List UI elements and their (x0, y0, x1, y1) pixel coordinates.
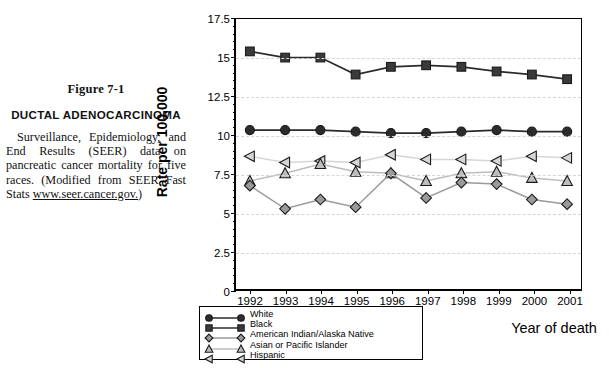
x-axis-tick (428, 289, 429, 294)
data-point (492, 67, 501, 76)
seer-link[interactable]: www.seer.cancer.gov. (33, 187, 138, 201)
y-axis-minor-tick (233, 34, 236, 35)
y-axis-minor-tick (233, 268, 236, 269)
data-point (491, 179, 502, 190)
x-axis-tick (534, 289, 535, 294)
data-point (246, 47, 255, 56)
y-axis-tick (231, 57, 236, 58)
y-axis-label: 17.5 (208, 13, 230, 25)
y-axis-minor-tick (233, 104, 236, 105)
legend-item[interactable]: American Indian/Alaska Native (203, 329, 419, 339)
x-axis-tick (321, 289, 322, 294)
y-axis-tick (231, 252, 236, 253)
data-point (280, 203, 291, 214)
legend-key-left-triangle-icon (203, 350, 247, 360)
data-point (527, 127, 536, 136)
x-axis-label: 1998 (451, 295, 477, 307)
series-line (250, 155, 567, 163)
y-axis-minor-tick (233, 283, 236, 284)
y-axis-minor-tick (233, 80, 236, 81)
data-point (526, 151, 536, 162)
data-point (422, 61, 431, 70)
legend-label: Black (250, 319, 272, 329)
y-axis-minor-tick (233, 49, 236, 50)
legend-key-diamond-icon (203, 329, 247, 339)
x-axis-tick (250, 289, 251, 294)
x-axis-label: 2000 (522, 295, 548, 307)
legend-item[interactable]: Black (203, 319, 419, 329)
data-point (421, 193, 432, 204)
legend-item[interactable]: Asian or Pacific Islander (203, 340, 419, 350)
legend-label: White (250, 309, 273, 319)
legend-item[interactable]: White (203, 309, 419, 319)
y-axis-minor-tick (233, 166, 236, 167)
y-axis-minor-tick (233, 143, 236, 144)
data-point (563, 75, 572, 84)
data-point (491, 156, 501, 167)
data-point (563, 127, 572, 136)
data-point (457, 62, 466, 71)
y-axis-minor-tick (233, 197, 236, 198)
x-axis-tick (357, 289, 358, 294)
chart-legend: WhiteBlackAmerican Indian/Alaska NativeA… (199, 306, 423, 360)
data-point (315, 194, 326, 205)
data-point (528, 70, 537, 79)
series-line (250, 51, 567, 79)
data-point (562, 153, 572, 164)
y-axis-label: 5 (224, 208, 230, 220)
data-point (457, 127, 466, 136)
y-axis-minor-tick (233, 26, 236, 27)
y-axis-label: 7.5 (214, 169, 230, 181)
y-axis-minor-tick (233, 65, 236, 66)
legend-label: American Indian/Alaska Native (250, 329, 374, 339)
y-axis-minor-tick (233, 275, 236, 276)
y-axis-minor-tick (233, 236, 236, 237)
y-axis-minor-tick (233, 151, 236, 152)
legend-label: Asian or Pacific Islander (250, 340, 348, 350)
y-axis-tick (231, 96, 236, 97)
data-point (244, 151, 254, 162)
series-line (250, 130, 567, 133)
caption-text-end: ) (138, 187, 142, 201)
y-axis-tick (231, 18, 236, 19)
data-point (245, 126, 254, 135)
series-layer (236, 19, 581, 289)
series-line (250, 164, 567, 181)
data-point (316, 126, 325, 135)
x-axis-tick (499, 289, 500, 294)
y-axis-minor-tick (233, 229, 236, 230)
data-point (421, 154, 431, 165)
y-axis-minor-tick (233, 205, 236, 206)
legend-key-square-icon (203, 319, 247, 329)
y-axis-label: 12.5 (208, 91, 230, 103)
data-point (387, 62, 396, 71)
data-point (527, 194, 538, 205)
data-point (456, 177, 467, 188)
y-axis-minor-tick (233, 119, 236, 120)
plot-area: 02.557.51012.51517.519921993199419951996… (234, 18, 582, 291)
data-point (351, 70, 360, 79)
legend-key-triangle-icon (203, 340, 247, 350)
data-point (385, 150, 395, 161)
x-axis-tick (463, 289, 464, 294)
x-axis-tick (392, 289, 393, 294)
grid-line (236, 253, 581, 254)
grid-line (236, 58, 581, 59)
series-left-triangle (244, 150, 571, 168)
data-point (280, 157, 290, 168)
x-axis-title: Year of death (511, 320, 597, 336)
x-axis-tick (570, 289, 571, 294)
data-point (281, 126, 290, 135)
legend-item[interactable]: Hispanic (203, 350, 419, 360)
y-axis-minor-tick (233, 88, 236, 89)
y-axis-tick (231, 213, 236, 214)
y-axis-minor-tick (233, 73, 236, 74)
y-axis-minor-tick (233, 244, 236, 245)
y-axis-minor-tick (233, 221, 236, 222)
y-axis-title: Rate per 100,000 (154, 87, 170, 198)
grid-line (236, 97, 581, 98)
y-axis-label: 2.5 (214, 247, 230, 259)
y-axis-minor-tick (233, 41, 236, 42)
grid-line (236, 136, 581, 137)
